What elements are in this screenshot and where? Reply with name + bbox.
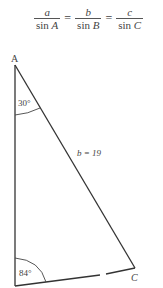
vertex-label-a: A [11, 53, 19, 64]
angle-label-a: 30° [18, 98, 31, 108]
vertex-label-c: C [131, 272, 138, 283]
angle-arc-a [15, 108, 40, 115]
angle-label-b: 84° [19, 268, 32, 278]
triangle-diagram: A 30° b = 19 84° C [0, 0, 163, 288]
side-ac [15, 65, 135, 268]
side-label-b: b = 19 [77, 148, 102, 158]
